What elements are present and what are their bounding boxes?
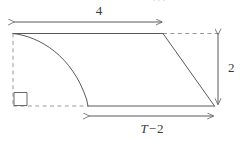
region-outline — [13, 34, 215, 107]
bottom-dimension-label: T−2 — [88, 122, 216, 135]
right-angle-square — [14, 93, 27, 106]
right-dimension-label: 2 — [228, 61, 235, 74]
bottom-label-operator: − — [148, 121, 157, 136]
bottom-label-variable: T — [140, 121, 147, 136]
right-angle-icon — [14, 93, 27, 106]
geometry-figure: ··· — [0, 0, 251, 141]
dimension-arrows — [14, 22, 218, 116]
concave-curve-edge — [13, 34, 88, 107]
top-dimension-label: 4 — [0, 4, 198, 17]
geometry-canvas — [0, 0, 251, 141]
slanted-right-edge — [163, 34, 215, 107]
bottom-label-value: 2 — [157, 121, 164, 136]
